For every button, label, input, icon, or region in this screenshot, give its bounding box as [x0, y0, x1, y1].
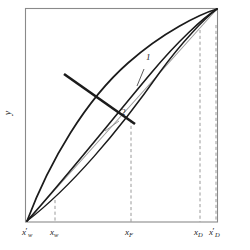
x-tick-label-xw: xw — [50, 228, 58, 237]
plot-svg — [0, 0, 250, 250]
tick-sub-xd-prime: D — [215, 231, 220, 238]
x-tick-label-xd-prime: x′D — [209, 228, 220, 237]
tick-sub-xw: w — [54, 231, 58, 238]
curve-2-label: 2 — [121, 108, 126, 117]
tick-sub-xf: F — [129, 231, 133, 238]
dashed-gridlines — [55, 25, 216, 222]
tick-sub-xd: D — [198, 231, 203, 238]
x-tick-label-xw-prime: x′w — [22, 228, 32, 237]
x-tick-label-xd: xD — [194, 228, 203, 237]
y-axis-label: y — [3, 111, 13, 115]
equilibrium-diagram-figure: y 1 2 x′w xw xF xD x′D — [0, 0, 250, 250]
tick-sub-xw-prime: w — [28, 231, 32, 238]
x-tick-label-xf: xF — [125, 228, 133, 237]
curve-1-label: 1 — [146, 53, 151, 62]
